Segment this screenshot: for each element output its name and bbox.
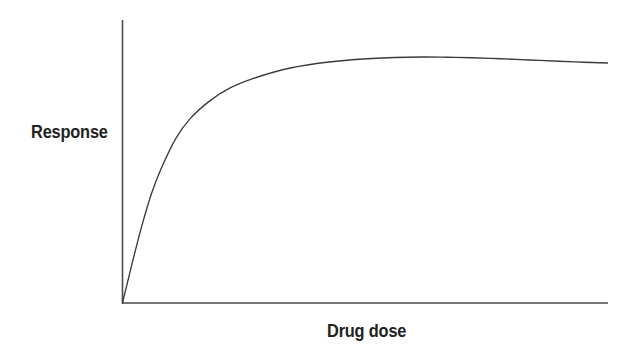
- y-axis-label: Response: [31, 122, 108, 142]
- plot-area: [0, 0, 634, 358]
- axes: [122, 20, 608, 304]
- x-axis-label: Drug dose: [327, 321, 406, 341]
- dose-response-figure: Response Drug dose: [0, 0, 634, 358]
- response-curve: [123, 57, 608, 303]
